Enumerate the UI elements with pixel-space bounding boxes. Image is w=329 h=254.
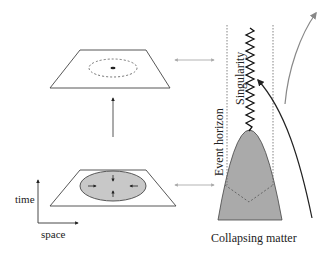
singularity-label: Singularity bbox=[233, 52, 247, 105]
event-horizon-label: Event horizon bbox=[212, 108, 226, 176]
singularity-zigzag bbox=[246, 28, 254, 131]
diagram-canvas: time space Event horizon Singularity Col… bbox=[0, 0, 329, 254]
top-spacetime-slice bbox=[50, 50, 170, 88]
bottom-spacetime-slice bbox=[50, 170, 176, 206]
escaping-light-ray bbox=[285, 13, 316, 104]
collapse-diagram: Event horizon Singularity Collapsing mat… bbox=[211, 13, 316, 245]
time-label: time bbox=[15, 193, 35, 205]
central-point bbox=[111, 67, 116, 70]
collapsing-matter-label: Collapsing matter bbox=[211, 231, 297, 245]
space-label: space bbox=[41, 228, 66, 240]
collapsing-matter-region bbox=[218, 130, 282, 220]
